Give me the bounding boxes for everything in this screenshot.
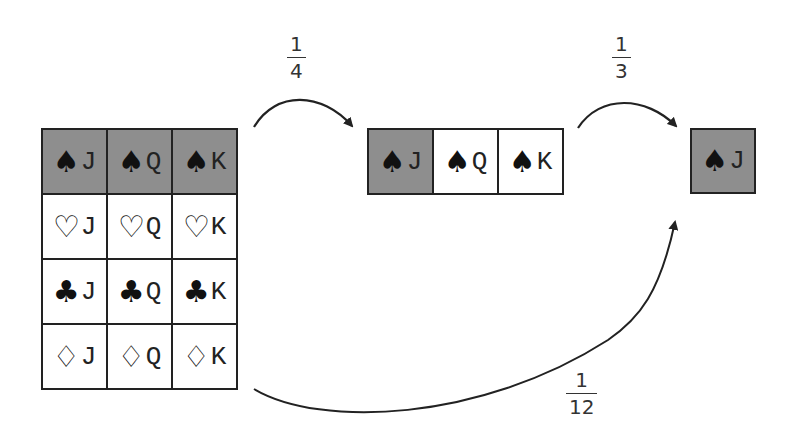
- fraction-numerator: 1: [612, 34, 631, 57]
- fraction-denominator: 12: [566, 393, 597, 417]
- arrow-grid-to-row: [254, 100, 352, 127]
- arrow-row-to-card: [578, 103, 676, 128]
- fraction-numerator: 1: [572, 370, 591, 393]
- probability-label-one-third: 1 3: [612, 34, 631, 81]
- probability-label-one-twelfth: 1 12: [566, 370, 597, 417]
- probability-label-one-quarter: 1 4: [287, 34, 306, 81]
- arrows-layer: [0, 0, 792, 448]
- arrow-grid-to-card: [254, 222, 675, 412]
- fraction-denominator: 3: [612, 57, 631, 81]
- fraction-numerator: 1: [287, 34, 306, 57]
- fraction-denominator: 4: [287, 57, 306, 81]
